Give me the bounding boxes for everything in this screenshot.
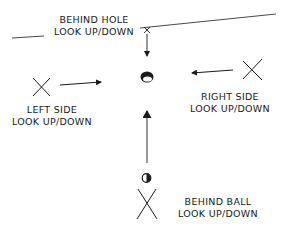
- x-mark-icon-right-side: [243, 59, 262, 80]
- label-right-side: RIGHT SIDE LOOK UP/DOWN: [182, 91, 278, 115]
- label-behind-hole-line1: BEHIND HOLE: [46, 14, 142, 26]
- label-behind-ball: BEHIND BALL LOOK UP/DOWN: [170, 196, 266, 220]
- label-left-side: LEFT SIDE LOOK UP/DOWN: [4, 104, 100, 128]
- x-mark-icon-behind-ball: [137, 189, 157, 219]
- hole-icon: [141, 72, 154, 83]
- label-behind-hole: BEHIND HOLE LOOK UP/DOWN: [46, 14, 142, 38]
- label-right-side-line2: LOOK UP/DOWN: [182, 103, 278, 115]
- label-behind-hole-line2: LOOK UP/DOWN: [46, 26, 142, 38]
- golf-ball-icon: [142, 174, 151, 183]
- label-behind-ball-line1: BEHIND BALL: [170, 196, 266, 208]
- label-behind-ball-line2: LOOK UP/DOWN: [170, 208, 266, 220]
- label-left-side-line2: LOOK UP/DOWN: [4, 116, 100, 128]
- x-mark-icon-behind-hole: [144, 27, 150, 33]
- arrow-icon-left: [192, 70, 233, 73]
- x-mark-icon-left-side: [33, 78, 50, 96]
- arrow-icon-right: [60, 82, 101, 85]
- label-right-side-line1: RIGHT SIDE: [182, 91, 278, 103]
- label-left-side-line1: LEFT SIDE: [4, 104, 100, 116]
